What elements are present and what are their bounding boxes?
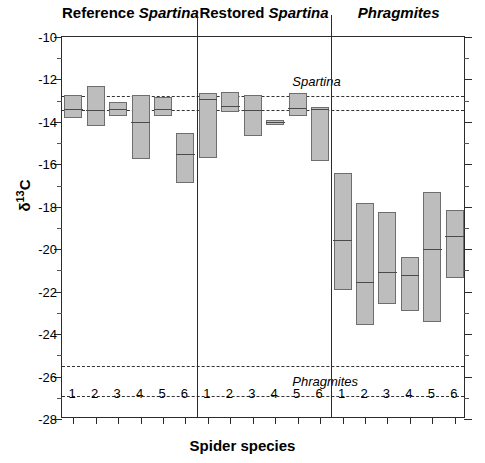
x-axis-tick [73, 417, 74, 424]
range-bar [266, 120, 284, 125]
y-axis-minor-tick [57, 228, 62, 229]
median-line [288, 108, 307, 109]
x-axis-tick-label: 3 [106, 386, 128, 401]
y-axis-minor-tick [57, 101, 62, 102]
y-axis-tick [464, 377, 472, 378]
y-axis-tick [464, 249, 472, 250]
y-axis-tick-label: -28 [17, 413, 57, 426]
range-bar [109, 102, 127, 116]
y-axis-tick [464, 419, 472, 420]
y-axis-tick [464, 207, 472, 208]
x-axis-tick-label: 3 [375, 386, 397, 401]
y-axis-tick-label: -10 [17, 31, 57, 44]
y-axis-tick [464, 122, 472, 123]
range-bar [378, 212, 396, 304]
median-line [109, 109, 128, 110]
y-axis-minor-tick [464, 58, 469, 59]
range-bar [311, 107, 329, 161]
y-axis-tick-label: -16 [17, 158, 57, 171]
x-axis-tick-label: 5 [286, 386, 308, 401]
median-line [176, 154, 195, 155]
y-axis-tick-label: -22 [17, 285, 57, 298]
range-bar [176, 133, 194, 184]
x-axis-tick [343, 417, 344, 424]
range-bar [446, 210, 464, 278]
y-axis-minor-tick [464, 355, 469, 356]
y-axis-minor-tick [57, 143, 62, 144]
median-line [266, 122, 285, 123]
median-line [199, 99, 218, 100]
x-axis-tick-label: 6 [443, 386, 465, 401]
x-axis-tick-label: 1 [331, 386, 353, 401]
range-bar [423, 192, 441, 323]
range-bar [221, 92, 239, 112]
x-axis-tick-label: 4 [398, 386, 420, 401]
x-axis-tick-label: 2 [84, 386, 106, 401]
y-axis-label-element: C [16, 179, 33, 190]
x-axis-tick [432, 417, 433, 424]
median-line [243, 110, 262, 111]
x-axis-tick [455, 417, 456, 424]
x-axis-tick-label: 1 [61, 386, 83, 401]
reference-line-phragmites-upper [62, 366, 464, 367]
median-line [311, 109, 330, 110]
group-header-restored-spartina: Restored Spartina [197, 4, 332, 21]
chart-figure: δ13C Spider species -10-12-14-16-18-20-2… [0, 0, 485, 463]
y-axis-minor-tick [464, 270, 469, 271]
median-line [221, 106, 240, 107]
x-axis-tick [118, 417, 119, 424]
range-bar [356, 203, 374, 325]
plot-area: -10-12-14-16-18-20-22-24-26-28SpartinaPh… [61, 36, 465, 418]
range-bar [244, 95, 262, 135]
y-axis-tick-label: -18 [17, 200, 57, 213]
y-axis-tick-label: -24 [17, 328, 57, 341]
group-divider [331, 15, 332, 417]
y-axis-tick-label: -20 [17, 243, 57, 256]
y-axis-minor-tick [57, 58, 62, 59]
range-bar [401, 257, 419, 311]
reference-line-label-spartina-upper: Spartina [292, 74, 340, 89]
x-axis-tick-label: 2 [218, 386, 240, 401]
y-axis-tick [464, 79, 472, 80]
x-axis-tick [275, 417, 276, 424]
reference-line-spartina-upper [62, 96, 464, 97]
median-line [356, 282, 375, 283]
x-axis-tick [185, 417, 186, 424]
group-divider [197, 15, 198, 417]
median-line [86, 110, 105, 111]
range-bar [334, 173, 352, 290]
y-axis-minor-tick [57, 270, 62, 271]
range-bar [154, 97, 172, 115]
median-line [423, 249, 442, 250]
x-axis-tick [163, 417, 164, 424]
x-axis-tick [320, 417, 321, 424]
x-axis-tick-label: 4 [129, 386, 151, 401]
y-axis-tick [464, 37, 472, 38]
x-axis-tick-label: 3 [241, 386, 263, 401]
y-axis-minor-tick [464, 143, 469, 144]
x-axis-label: Spider species [0, 437, 485, 454]
x-axis-tick [365, 417, 366, 424]
x-axis-tick [141, 417, 142, 424]
y-axis-minor-tick [464, 101, 469, 102]
y-axis-tick-label: -12 [17, 73, 57, 86]
range-bar [132, 95, 150, 159]
x-axis-tick [298, 417, 299, 424]
x-axis-tick [253, 417, 254, 424]
y-axis-tick-label: -26 [17, 370, 57, 383]
median-line [333, 240, 352, 241]
x-axis-tick-label: 5 [151, 386, 173, 401]
y-axis-tick [464, 164, 472, 165]
median-line [131, 122, 150, 123]
x-axis-tick-label: 4 [263, 386, 285, 401]
y-axis-minor-tick [57, 313, 62, 314]
y-axis-tick [464, 334, 472, 335]
y-axis-tick-label: -14 [17, 115, 57, 128]
y-axis-minor-tick [464, 313, 469, 314]
group-header-phragmites: Phragmites [331, 4, 466, 21]
y-axis-tick [464, 292, 472, 293]
x-axis-tick-label: 5 [420, 386, 442, 401]
y-axis-minor-tick [464, 228, 469, 229]
median-line [445, 236, 464, 237]
range-bar [199, 93, 217, 158]
